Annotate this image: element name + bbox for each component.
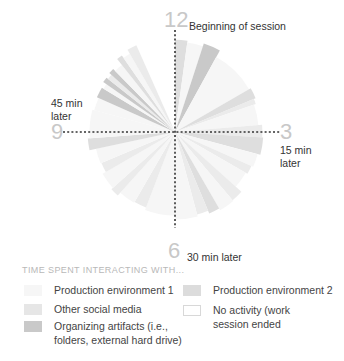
annotation-15min-line2: later: [280, 157, 312, 170]
legend-item-other-social-media: Other social media: [24, 303, 174, 317]
legend-label: No activity (work session ended: [213, 304, 328, 331]
legend-label: Organizing artifacts (i.e., folders, ext…: [54, 320, 184, 347]
legend-title: TIME SPENT INTERACTING WITH...: [22, 265, 184, 275]
clock-numeral-9: 9: [51, 121, 63, 143]
annotation-30min: 30 min later: [187, 251, 242, 264]
legend-swatch: [183, 305, 201, 316]
legend-swatch: [24, 321, 42, 332]
legend-label: Production environment 2: [213, 284, 333, 298]
annotation-45min-line1: 45 min: [51, 97, 83, 110]
annotation-15min-line1: 15 min: [280, 144, 312, 157]
legend-swatch: [24, 285, 42, 296]
annotation-45min: 45 min later: [51, 97, 83, 123]
legend-item-production-env-2: Production environment 2: [183, 284, 343, 298]
clock-numeral-12: 12: [164, 9, 188, 31]
annotation-45min-line2: later: [51, 110, 83, 123]
legend-swatch: [183, 285, 201, 296]
clock-numeral-3: 3: [280, 121, 292, 143]
clock-numeral-6: 6: [168, 240, 180, 262]
legend-label: Production environment 1: [54, 284, 174, 298]
legend-item-no-activity: No activity (work session ended: [183, 304, 328, 331]
activity-wedges: [88, 40, 263, 220]
legend-swatch: [24, 304, 42, 315]
legend-label: Other social media: [54, 303, 142, 317]
annotation-beginning: Beginning of session: [189, 20, 286, 33]
annotation-15min: 15 min later: [280, 144, 312, 170]
legend-item-production-env-1: Production environment 1: [24, 284, 174, 298]
legend-item-organizing-artifacts: Organizing artifacts (i.e., folders, ext…: [24, 320, 184, 347]
